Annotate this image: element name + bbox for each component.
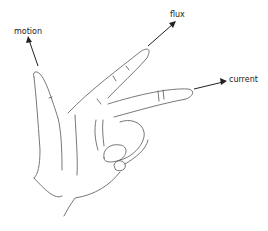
middle-finger	[108, 89, 193, 117]
flux-arrow	[148, 21, 176, 46]
flux-label: flux	[170, 11, 185, 19]
current-label: current	[229, 76, 258, 84]
motion-label: motion	[14, 28, 42, 36]
current-arrow	[194, 78, 227, 89]
right-hand-rule-diagram: motion flux current	[0, 0, 268, 231]
index-finger	[68, 49, 149, 113]
palm	[95, 120, 98, 150]
ring-finger	[120, 120, 144, 160]
motion-arrow	[26, 36, 38, 66]
